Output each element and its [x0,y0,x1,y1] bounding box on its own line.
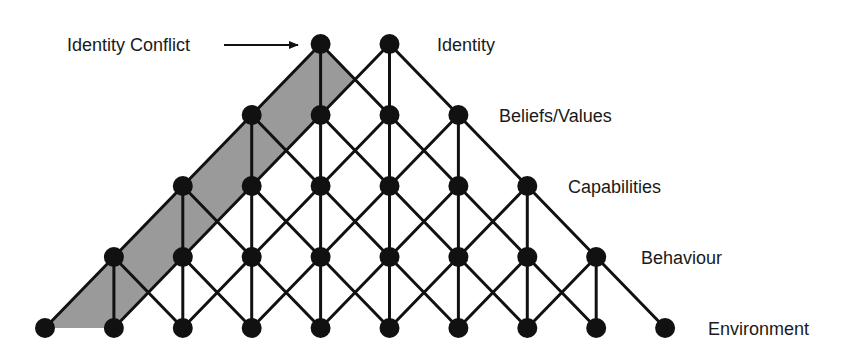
lattice-node [311,176,331,196]
lattice-node [380,34,400,54]
lattice-node [242,318,262,338]
level-label-capabilities: Capabilities [568,177,661,197]
level-label-environment: Environment [708,319,809,339]
lattice-node [517,247,537,267]
lattice-node [104,318,124,338]
lattice-node [448,176,468,196]
lattice-node [380,176,400,196]
lattice-node [448,105,468,125]
lattice-node [242,247,262,267]
lattice-node [311,34,331,54]
lattice-node [104,247,124,267]
identity-conflict-label: Identity Conflict [67,35,190,55]
lattice-node [173,318,193,338]
lattice-node [242,176,262,196]
shaded-band [45,44,355,328]
lattice-node [448,318,468,338]
lattice-node [448,247,468,267]
lattice-node [380,247,400,267]
lattice-node [35,318,55,338]
lattice-node [311,105,331,125]
lattice-node [517,318,537,338]
identity-conflict-annotation: Identity Conflict [67,35,298,55]
lattice-node [517,176,537,196]
lattice-node [586,247,606,267]
lattice-node [173,176,193,196]
level-label-beliefs-values: Beliefs/Values [499,106,612,126]
lattice-diagram: Identity Beliefs/Values Capabilities Beh… [0,0,863,359]
identity-conflict-shaded-region [45,44,355,328]
lattice-node [655,318,675,338]
level-label-behaviour: Behaviour [641,248,722,268]
lattice-node [242,105,262,125]
lattice-node [380,105,400,125]
lattice-node [311,247,331,267]
diagram-canvas: Identity Beliefs/Values Capabilities Beh… [0,0,863,359]
lattice-node [173,247,193,267]
lattice-node [311,318,331,338]
lattice-node [380,318,400,338]
level-label-identity: Identity [437,35,495,55]
lattice-node [586,318,606,338]
